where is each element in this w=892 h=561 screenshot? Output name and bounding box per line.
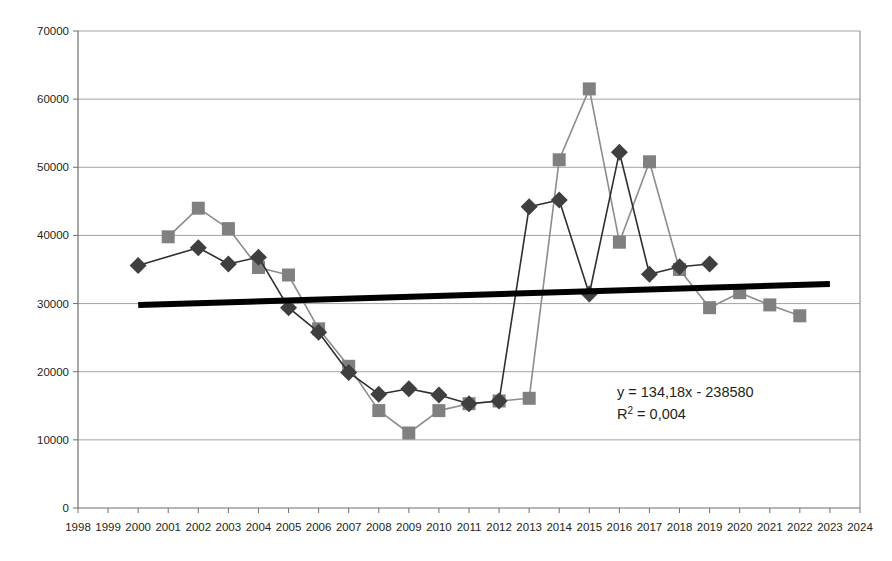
x-tick-label-2009: 2009 <box>396 521 422 533</box>
y-tick-label-70000: 70000 <box>37 25 69 37</box>
series-gray-square-marker-2003 <box>222 222 235 235</box>
series-gray-square-marker-2014 <box>553 153 566 166</box>
y-tick-marks-group <box>73 31 78 508</box>
series-gray-square-marker-2001 <box>162 230 175 243</box>
x-tick-labels-group: 1998199920002001200220032004200520062007… <box>65 521 873 533</box>
x-tick-label-2005: 2005 <box>276 521 302 533</box>
x-tick-label-1998: 1998 <box>65 521 91 533</box>
series-dark-diamond-line <box>138 152 709 403</box>
series-gray-square-marker-2019 <box>703 301 716 314</box>
x-tick-label-2018: 2018 <box>667 521 693 533</box>
x-tick-label-2004: 2004 <box>246 521 272 533</box>
series-gray-square-marker-2002 <box>192 202 205 215</box>
trendline-equation-text: y = 134,18x - 238580 <box>617 384 754 400</box>
trendline-layer <box>138 284 830 305</box>
series-dark-diamond-marker-2002 <box>190 239 207 256</box>
x-tick-marks-group <box>78 508 860 513</box>
chart-container: 010000200003000040000500006000070000 199… <box>0 0 892 561</box>
series-gray-square-marker-2008 <box>372 404 385 417</box>
x-tick-label-2003: 2003 <box>216 521 242 533</box>
series-dark-diamond-marker-2000 <box>130 257 147 274</box>
x-tick-label-2007: 2007 <box>336 521 362 533</box>
x-tick-label-2017: 2017 <box>637 521 663 533</box>
x-tick-label-2006: 2006 <box>306 521 332 533</box>
x-tick-label-2024: 2024 <box>847 521 873 533</box>
y-tick-label-50000: 50000 <box>37 161 69 173</box>
series-gray-square-marker-2010 <box>432 404 445 417</box>
series-dark-diamond-marker-2017 <box>641 266 658 283</box>
x-tick-label-2021: 2021 <box>757 521 783 533</box>
x-tick-label-2001: 2001 <box>155 521 181 533</box>
series-dark-diamond-marker-2009 <box>400 380 417 397</box>
x-tick-label-2023: 2023 <box>817 521 843 533</box>
x-tick-label-2008: 2008 <box>366 521 392 533</box>
linear-trendline <box>138 284 830 305</box>
x-tick-label-2019: 2019 <box>697 521 723 533</box>
x-tick-label-2015: 2015 <box>577 521 603 533</box>
x-tick-label-2010: 2010 <box>426 521 452 533</box>
series-dark-diamond-marker-2008 <box>370 386 387 403</box>
series-dark-diamond-marker-2013 <box>521 198 538 215</box>
series-dark-diamond-marker-2019 <box>701 256 718 273</box>
x-tick-label-2000: 2000 <box>125 521 151 533</box>
series-gray-square-marker-2022 <box>793 309 806 322</box>
series-gray-square-marker-2009 <box>402 427 415 440</box>
series-gray-square-marker-2015 <box>583 82 596 95</box>
y-tick-label-30000: 30000 <box>37 298 69 310</box>
x-tick-label-2002: 2002 <box>186 521 212 533</box>
y-tick-label-40000: 40000 <box>37 229 69 241</box>
trendline-equation-annotation: y = 134,18x - 238580 R2 = 0,004 <box>617 384 754 422</box>
series-dark-diamond-marker-2003 <box>220 256 237 273</box>
x-tick-label-2012: 2012 <box>486 521 512 533</box>
x-tick-label-2020: 2020 <box>727 521 753 533</box>
x-tick-label-2013: 2013 <box>516 521 542 533</box>
x-tick-label-2016: 2016 <box>607 521 633 533</box>
series-gray-square-marker-2021 <box>763 298 776 311</box>
series-gray-square-marker-2016 <box>613 236 626 249</box>
series-dark-diamond-marker-2016 <box>611 144 628 161</box>
gridlines-group <box>78 31 860 440</box>
y-tick-label-10000: 10000 <box>37 434 69 446</box>
x-tick-label-1999: 1999 <box>95 521 121 533</box>
series-gray-square-marker-2005 <box>282 269 295 282</box>
y-tick-label-20000: 20000 <box>37 366 69 378</box>
x-tick-label-2011: 2011 <box>457 521 482 533</box>
x-tick-label-2022: 2022 <box>787 521 813 533</box>
series-dark-diamond-marker-2010 <box>430 386 447 403</box>
y-tick-labels-group: 010000200003000040000500006000070000 <box>37 25 69 514</box>
chart-canvas: 010000200003000040000500006000070000 199… <box>0 0 892 561</box>
series-gray-square-marker-2017 <box>643 155 656 168</box>
series-gray-square-marker-2013 <box>523 392 536 405</box>
y-tick-label-60000: 60000 <box>37 93 69 105</box>
r-squared-text: R2 = 0,004 <box>617 405 686 422</box>
y-tick-label-0: 0 <box>63 502 69 514</box>
x-tick-label-2014: 2014 <box>546 521 572 533</box>
